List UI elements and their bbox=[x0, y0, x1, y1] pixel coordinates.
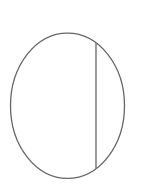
ellipse-shape bbox=[11, 33, 125, 178]
ellipse-with-chord-diagram bbox=[0, 0, 141, 196]
diagram-canvas bbox=[0, 0, 141, 196]
